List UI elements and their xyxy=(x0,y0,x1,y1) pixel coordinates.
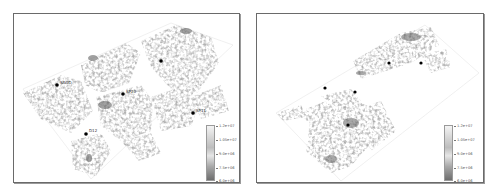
well-marker xyxy=(387,61,390,64)
svg-text:SP11: SP11 xyxy=(196,108,206,113)
right-heat-clusters xyxy=(277,27,451,173)
well-marker xyxy=(323,86,326,89)
legend-tick: 9.0e+06 xyxy=(454,152,473,156)
legend-tick: 6.0e+06 xyxy=(216,179,235,183)
well-sp01 xyxy=(159,59,163,63)
well-sagd xyxy=(55,83,59,87)
right-colorbar-legend: 1.2e+07 1.05e+07 9.0e+06 7.5e+06 6.0e+06 xyxy=(444,125,486,181)
svg-text:SP20: SP20 xyxy=(126,89,136,94)
legend-tick: 1.05e+07 xyxy=(216,138,237,142)
colorbar-gradient xyxy=(444,125,453,181)
svg-text:D12: D12 xyxy=(89,128,98,133)
legend-tick: 7.5e+06 xyxy=(454,166,473,170)
well-marker xyxy=(346,123,349,126)
well-marker xyxy=(353,90,356,93)
legend-tick: 9.0e+06 xyxy=(216,152,235,156)
legend-tick: 1.05e+07 xyxy=(454,138,475,142)
right-map-panel: 1.2e+07 1.05e+07 9.0e+06 7.5e+06 6.0e+06 xyxy=(256,13,484,183)
well-sp20 xyxy=(121,92,125,96)
well-sp11 xyxy=(191,111,195,115)
well-d12 xyxy=(84,132,88,136)
left-map-panel: SAGD SP20 SP11 D12 1.2e+07 1.05e+07 9.0e… xyxy=(13,13,240,183)
legend-tick: 7.5e+06 xyxy=(216,166,235,170)
left-colorbar-legend: 1.2e+07 1.05e+07 9.0e+06 7.5e+06 6.0e+06 xyxy=(206,125,248,181)
legend-tick: 1.2e+07 xyxy=(216,124,235,128)
left-heat-clusters xyxy=(23,25,229,176)
legend-tick: 1.2e+07 xyxy=(454,124,473,128)
svg-text:SAGD: SAGD xyxy=(60,80,71,85)
well-marker xyxy=(419,61,422,64)
legend-tick: 6.0e+06 xyxy=(454,179,473,183)
colorbar-gradient xyxy=(206,125,215,181)
